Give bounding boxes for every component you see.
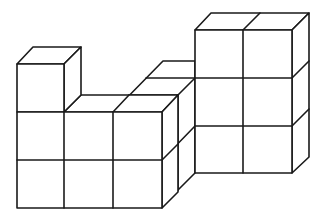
right-tower <box>195 13 309 173</box>
stacked-cubes-diagram <box>0 0 327 221</box>
cube-figure <box>0 0 327 221</box>
